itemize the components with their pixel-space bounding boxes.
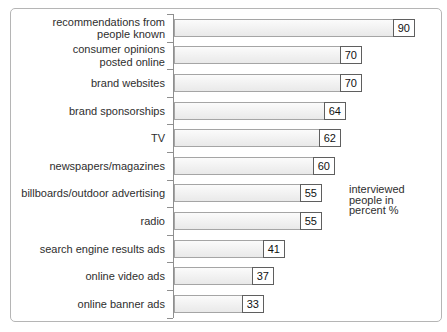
- value-label: 55: [300, 184, 322, 202]
- category-label: billboards/outdoor advertising: [11, 187, 165, 200]
- bar: 60: [174, 157, 335, 175]
- category-label: search engine results ads: [11, 242, 165, 255]
- bar: 37: [174, 267, 274, 285]
- bar-row: online video ads 37: [11, 262, 441, 290]
- value-label: 64: [324, 102, 346, 120]
- bar: 70: [174, 46, 362, 64]
- value-label: 60: [313, 157, 335, 175]
- value-label: 55: [300, 212, 322, 230]
- units-annotation: interviewed people in percent %: [349, 184, 405, 216]
- value-label: 37: [252, 267, 274, 285]
- value-label: 90: [393, 19, 415, 37]
- category-label: TV: [11, 132, 165, 145]
- category-label: newspapers/magazines: [11, 160, 165, 173]
- bar: 64: [174, 102, 346, 120]
- bar: 70: [174, 74, 362, 92]
- value-label: 41: [263, 240, 285, 258]
- category-label: online banner ads: [11, 297, 165, 310]
- category-label: radio: [11, 215, 165, 228]
- value-label: 70: [340, 46, 362, 64]
- chart-panel: recommendations from people known 90 con…: [10, 8, 442, 322]
- bar-rows: recommendations from people known 90 con…: [11, 14, 441, 318]
- value-label: 70: [340, 74, 362, 92]
- bar-row: search engine results ads 41: [11, 235, 441, 263]
- axis-tick: [167, 318, 173, 319]
- bar: 90: [174, 19, 415, 37]
- value-label: 62: [319, 129, 341, 147]
- bar: 33: [174, 295, 264, 313]
- category-label: brand websites: [11, 77, 165, 90]
- chart-image: recommendations from people known 90 con…: [0, 0, 447, 332]
- bar-row: TV 62: [11, 124, 441, 152]
- bar: 62: [174, 129, 341, 147]
- value-label: 33: [242, 295, 264, 313]
- bar: 41: [174, 240, 285, 258]
- category-label: consumer opinions posted online: [11, 43, 165, 68]
- bar: 55: [174, 184, 322, 202]
- category-label: online video ads: [11, 270, 165, 283]
- bar-row: brand sponsorships 64: [11, 97, 441, 125]
- category-label: brand sponsorships: [11, 104, 165, 117]
- bar: 55: [174, 212, 322, 230]
- bar-row: online banner ads 33: [11, 290, 441, 318]
- bar-row: consumer opinions posted online 70: [11, 42, 441, 70]
- category-label: recommendations from people known: [11, 15, 165, 40]
- bar-row: recommendations from people known 90: [11, 14, 441, 42]
- bar-row: newspapers/magazines 60: [11, 152, 441, 180]
- bar-row: brand websites 70: [11, 69, 441, 97]
